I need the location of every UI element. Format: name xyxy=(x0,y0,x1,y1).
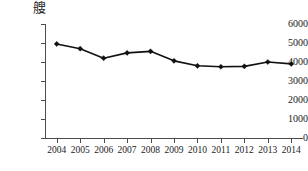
data-point-marker xyxy=(289,61,294,66)
line-chart: 艘 0100020003000400050006000 200420052006… xyxy=(0,0,308,171)
data-point-marker xyxy=(242,64,247,69)
series-markers xyxy=(54,41,294,69)
data-point-marker xyxy=(171,58,176,63)
data-point-marker xyxy=(265,59,270,64)
data-point-marker xyxy=(78,46,83,51)
data-point-marker xyxy=(124,50,129,55)
data-point-marker xyxy=(218,64,223,69)
plot-area xyxy=(0,0,308,171)
data-point-marker xyxy=(148,49,153,54)
data-point-marker xyxy=(54,41,59,46)
data-point-marker xyxy=(101,56,106,61)
data-point-marker xyxy=(195,63,200,68)
